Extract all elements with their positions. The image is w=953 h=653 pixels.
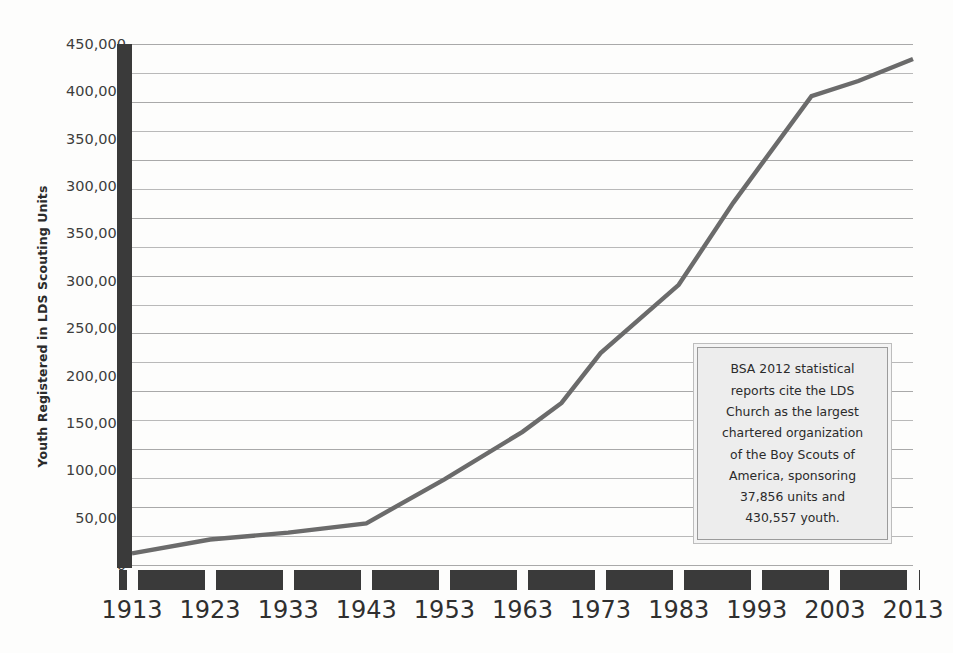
x-axis-segment	[762, 570, 829, 590]
x-axis-tick-label: 1933	[258, 596, 319, 624]
x-axis-segment	[840, 570, 907, 590]
x-axis-tick-label: 1923	[180, 596, 241, 624]
y-axis-tick-label: 50,000	[30, 510, 126, 526]
y-axis-tick-label: 300,000	[30, 178, 126, 194]
x-axis-tick-label: 2013	[882, 596, 943, 624]
y-axis-tick-label: 250,000	[30, 320, 126, 336]
y-axis-tick-label: 350,000	[30, 225, 126, 241]
x-axis-tick-label: 1993	[726, 596, 787, 624]
annotation-text: BSA 2012 statisticalreports cite the LDS…	[722, 358, 863, 529]
x-axis-tick-label: 1963	[492, 596, 553, 624]
x-axis-tick-label: 1973	[570, 596, 631, 624]
x-axis-segment	[684, 570, 751, 590]
x-axis-segment	[528, 570, 595, 590]
x-axis-tick-label: 1983	[648, 596, 709, 624]
y-axis-line	[117, 44, 132, 568]
x-axis-segment	[216, 570, 283, 590]
y-axis-tick-label: 400,000	[30, 83, 126, 99]
gridline	[132, 565, 913, 566]
x-axis-segment	[138, 570, 205, 590]
x-axis-segment	[919, 570, 920, 590]
x-axis-tick-label: 1943	[336, 596, 397, 624]
y-axis-tick-label: 350,000	[30, 131, 126, 147]
x-axis-tick-label: 1913	[101, 596, 162, 624]
y-axis-tick-label: 150,000	[30, 415, 126, 431]
y-axis-tick-label: 100,000	[30, 462, 126, 478]
x-axis-tick-label: 2003	[804, 596, 865, 624]
x-axis-segment	[119, 570, 127, 590]
y-axis-tick-label: 0	[30, 557, 126, 573]
x-axis-segment	[450, 570, 517, 590]
x-axis-segment	[372, 570, 439, 590]
y-axis-tick-label: 300,000	[30, 273, 126, 289]
y-axis-tick-labels: 450,000400,000350,000300,000350,000300,0…	[30, 0, 126, 653]
x-axis-line	[132, 570, 919, 590]
x-axis-tick-labels: 1913192319331943195319631973198319932003…	[0, 596, 953, 636]
line-chart: Youth Registered in LDS Scouting Units 4…	[0, 0, 953, 653]
y-axis-tick-label: 450,000	[30, 36, 126, 52]
x-axis-segment	[606, 570, 673, 590]
x-axis-tick-label: 1953	[414, 596, 475, 624]
annotation-callout: BSA 2012 statisticalreports cite the LDS…	[697, 347, 888, 540]
x-axis-segment	[294, 570, 361, 590]
y-axis-tick-label: 200,000	[30, 368, 126, 384]
